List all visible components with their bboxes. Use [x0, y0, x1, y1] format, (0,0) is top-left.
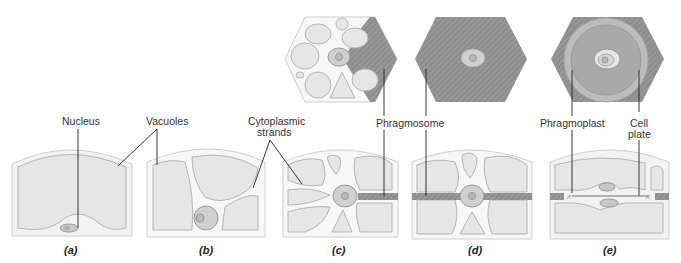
- panel-label-d: (d): [468, 244, 482, 256]
- panel-d-top-view: [415, 17, 527, 102]
- nucleolus: [342, 193, 349, 200]
- phragmoplast-right: ⩘: [645, 192, 650, 201]
- label-cell-plate-2: plate: [628, 128, 651, 140]
- vacuole: [336, 18, 348, 30]
- panel-label-b: (b): [199, 244, 213, 256]
- vacuole: [342, 28, 368, 48]
- nucleolus: [64, 226, 70, 230]
- nucleolus: [336, 54, 343, 61]
- panel-e-top-view: [551, 17, 664, 102]
- nucleolus: [470, 55, 477, 62]
- vacuole: [488, 200, 527, 234]
- vacuole: [153, 161, 193, 230]
- panel-label-c: (c): [332, 244, 346, 256]
- panel-c: [283, 150, 398, 237]
- vacuole: [291, 43, 319, 69]
- vacuole: [305, 24, 331, 44]
- vacuole: [417, 200, 457, 234]
- vacuole: [356, 203, 392, 232]
- phragmosome: [358, 193, 398, 200]
- side-vacuole: [651, 166, 663, 190]
- panel-b: [147, 149, 265, 237]
- label-phragmoplast: Phragmoplast: [540, 117, 605, 129]
- panel-label-e: (e): [603, 244, 617, 256]
- label-vacuoles: Vacuoles: [146, 115, 188, 127]
- label-phragmosome: Phragmosome: [376, 117, 444, 129]
- phragmoplast-left: ⩘: [566, 192, 571, 201]
- nucleolus: [196, 214, 204, 222]
- vacuole: [354, 156, 392, 190]
- label-cytoplasmic-strands-2: strands: [257, 126, 291, 138]
- nucleolus: [602, 57, 608, 63]
- vacuole: [484, 156, 527, 192]
- panel-e: ⩘ ⩘: [550, 150, 669, 239]
- panel-c-top-view: [285, 17, 397, 102]
- daughter-nucleus-bottom: [600, 199, 618, 207]
- vacuole: [352, 69, 378, 91]
- label-nucleus: Nucleus: [62, 115, 100, 127]
- phragmosome-left: [550, 193, 564, 200]
- panel-a: [12, 150, 132, 236]
- nucleolus: [469, 193, 476, 200]
- vacuole: [305, 72, 331, 98]
- panel-label-a: (a): [64, 244, 78, 256]
- vacuole: [417, 160, 459, 192]
- panel-d: [412, 150, 532, 239]
- phragmosome-right: [655, 193, 669, 200]
- daughter-nucleus-top: [599, 183, 615, 191]
- vacuole: [296, 72, 304, 78]
